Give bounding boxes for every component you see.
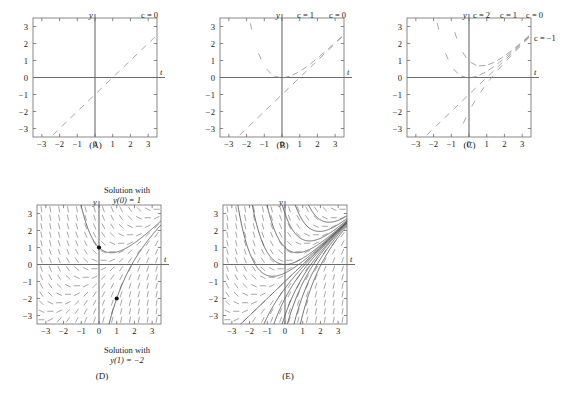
slope-segment bbox=[111, 300, 113, 306]
slope-segment bbox=[111, 206, 113, 212]
slope-segment bbox=[133, 54, 138, 59]
y-tick-label: 2 bbox=[24, 39, 28, 49]
slope-segment bbox=[463, 118, 466, 124]
slope-segment bbox=[305, 215, 309, 220]
slope-segment bbox=[236, 223, 237, 229]
slope-segment bbox=[342, 308, 343, 314]
slope-segment bbox=[97, 88, 102, 93]
slope-segment bbox=[242, 310, 248, 313]
slope-segment bbox=[306, 207, 309, 212]
slope-segment bbox=[333, 274, 335, 280]
slope-segment bbox=[288, 215, 290, 221]
y-tick-label: −3 bbox=[209, 311, 218, 321]
slope-segment bbox=[49, 275, 52, 280]
slope-segment bbox=[115, 71, 120, 76]
slope-segment bbox=[75, 317, 78, 322]
panel-A-caption: (A) bbox=[18, 140, 173, 150]
slope-segment bbox=[74, 293, 80, 296]
slope-segment bbox=[129, 274, 131, 280]
slope-segment bbox=[266, 105, 271, 110]
slope-segment bbox=[85, 317, 87, 323]
slope-segment bbox=[251, 301, 257, 304]
slope-segment bbox=[280, 206, 282, 212]
panel-B: y c = 1 c = 0 −3−3−2−2−1−100112233 t (B) bbox=[205, 6, 360, 156]
slope-segment bbox=[278, 259, 284, 262]
slope-segment bbox=[120, 207, 123, 212]
slope-segment bbox=[76, 240, 78, 246]
slope-segment bbox=[40, 283, 43, 288]
panel-B-axis-label-t: t bbox=[347, 67, 349, 77]
panel-E-plot: −3−3−2−2−1−100112233 bbox=[208, 193, 380, 343]
y-tick-label: 1 bbox=[28, 243, 32, 253]
slope-segment bbox=[288, 232, 292, 237]
slope-segment bbox=[472, 101, 475, 107]
y-tick-label: 3 bbox=[28, 209, 32, 219]
slope-segment bbox=[83, 292, 87, 296]
slope-segment bbox=[252, 275, 256, 279]
slope-segment bbox=[244, 249, 246, 255]
slope-segment bbox=[234, 292, 238, 296]
slope-segment bbox=[102, 232, 106, 237]
x-tick-label: 3 bbox=[336, 326, 340, 336]
slope-segment bbox=[244, 257, 246, 263]
slope-segment bbox=[58, 223, 59, 229]
slope-segment bbox=[128, 258, 132, 263]
y-tick-label: −2 bbox=[23, 294, 32, 304]
slope-segment bbox=[84, 241, 87, 246]
slope-segment bbox=[243, 275, 247, 280]
slope-segment bbox=[297, 224, 301, 229]
slope-segment bbox=[315, 300, 317, 306]
solution-curve-family bbox=[230, 222, 347, 334]
y-tick-label: −3 bbox=[23, 311, 32, 321]
x-tick-label: 1 bbox=[301, 326, 305, 336]
slope-segment bbox=[306, 308, 308, 314]
solution-curve-family bbox=[270, 223, 347, 335]
slope-segment bbox=[261, 249, 264, 254]
slope-segment bbox=[138, 274, 140, 280]
panel-A-curve-label-c0: c = 0 bbox=[141, 10, 158, 20]
slope-segment bbox=[245, 206, 246, 212]
slope-segment bbox=[342, 274, 344, 280]
slope-segment bbox=[297, 300, 299, 306]
panel-A-plot: −3−3−2−2−1−100112233 bbox=[18, 6, 173, 156]
panel-D-plot: −3−3−2−2−1−100112233 bbox=[22, 193, 194, 343]
slope-segment bbox=[251, 284, 257, 287]
y-tick-label: 2 bbox=[214, 226, 218, 236]
figure-bottom-caption bbox=[0, 389, 568, 396]
slope-segment bbox=[244, 223, 245, 229]
slope-segment bbox=[128, 207, 132, 212]
slope-segment bbox=[93, 292, 97, 297]
slope-segment bbox=[253, 223, 255, 229]
slope-segment bbox=[252, 317, 256, 322]
slope-segment bbox=[341, 241, 344, 246]
slope-segment bbox=[279, 232, 282, 237]
slope-segment bbox=[275, 96, 280, 101]
slope-segment bbox=[58, 232, 60, 238]
y-tick-label: 3 bbox=[214, 209, 218, 219]
slope-segment bbox=[138, 308, 139, 314]
slope-segment bbox=[236, 206, 237, 212]
panel-D-caption: (D) bbox=[52, 371, 152, 381]
slope-segment bbox=[258, 113, 263, 118]
slope-segment bbox=[49, 257, 51, 263]
slope-segment bbox=[155, 232, 159, 237]
y-tick-label: −3 bbox=[393, 124, 402, 134]
y-tick-label: 1 bbox=[214, 243, 218, 253]
slope-segment bbox=[262, 206, 263, 212]
y-tick-label: −2 bbox=[393, 107, 402, 117]
slope-segment bbox=[227, 206, 228, 212]
slope-segment bbox=[76, 232, 78, 238]
slope-segment bbox=[94, 206, 96, 212]
panel-B-axis-label-y: y bbox=[276, 10, 280, 20]
slope-segment bbox=[236, 215, 237, 221]
slope-segment bbox=[111, 224, 115, 229]
slope-segment bbox=[137, 207, 141, 211]
slope-segment bbox=[93, 308, 95, 314]
slope-segment bbox=[146, 241, 150, 246]
slope-segment bbox=[119, 266, 123, 271]
slope-segment bbox=[50, 232, 51, 238]
slope-segment bbox=[261, 258, 265, 263]
slope-segment bbox=[111, 291, 113, 297]
slope-segment bbox=[120, 300, 122, 306]
slope-segment bbox=[41, 215, 42, 221]
